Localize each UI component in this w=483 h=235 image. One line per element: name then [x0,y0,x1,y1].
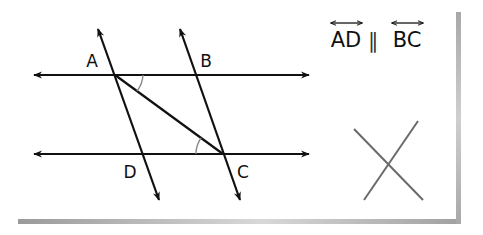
label-B: B [200,51,212,71]
x-mark-icon [354,121,423,200]
bottom-shadow [18,219,461,224]
parallel-symbol: ∥ [368,29,379,53]
right-shadow [456,12,461,224]
angle-mark-A [137,75,143,91]
diagram-card: A B C D AD ∥ BC [0,0,483,235]
label-A: A [86,51,98,71]
parallel-statement: AD ∥ BC [331,23,423,53]
statement-right: BC [393,28,422,52]
label-C: C [237,162,249,182]
label-D: D [123,162,136,182]
segment-AC [115,75,223,154]
angle-mark-C [196,138,201,154]
statement-left: AD [331,28,362,52]
